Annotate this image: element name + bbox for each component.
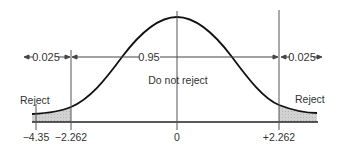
left-tail-probability: 0.025 — [32, 51, 60, 63]
tick-label-zero: 0 — [174, 131, 180, 143]
left-reject-label: Reject — [20, 94, 50, 106]
probability-arrows — [24, 55, 322, 59]
t-distribution-diagram: 0.025 0.95 0.025 Do not reject Reject Re… — [0, 0, 345, 152]
right-reject-label: Reject — [295, 93, 325, 105]
tick-label-neg-2-262: −2.262 — [55, 131, 88, 143]
right-tail-probability: 0.025 — [288, 51, 316, 63]
tick-label-pos-2-262: +2.262 — [263, 131, 296, 143]
tick-label-neg-4-35: −4.35 — [23, 131, 50, 143]
do-not-reject-label: Do not reject — [148, 74, 208, 86]
distribution-curve — [32, 17, 317, 114]
center-probability: 0.95 — [138, 51, 159, 63]
